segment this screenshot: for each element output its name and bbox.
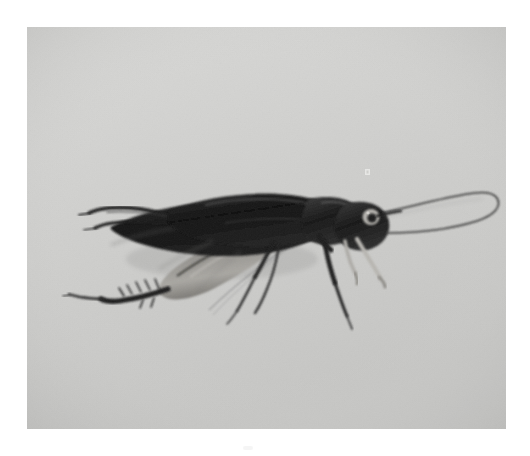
photograph-canvas [27,27,506,429]
page [0,0,530,456]
film-grain [27,27,506,429]
margin-artifact [243,446,253,450]
photograph [27,27,506,429]
